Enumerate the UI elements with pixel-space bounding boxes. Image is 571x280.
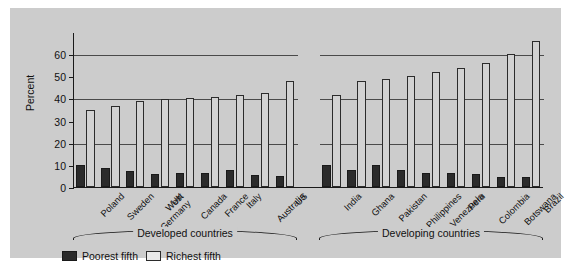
bar-richest-fifth <box>407 76 415 187</box>
legend-item-richest: Richest fifth <box>146 251 221 262</box>
bar-group <box>276 81 296 187</box>
y-tick-label-10: 10 <box>54 161 66 172</box>
bar-poorest-fifth <box>226 170 234 187</box>
x-tick-label: Ghana <box>370 192 397 219</box>
bar-richest-fifth <box>186 98 194 187</box>
gridline-60-group-0 <box>74 55 298 56</box>
y-tick-label-40: 40 <box>54 94 66 105</box>
y-axis-title: Percent <box>24 75 36 111</box>
bar-poorest-fifth <box>372 165 380 187</box>
bar-richest-fifth <box>161 99 169 187</box>
legend-label-poorest: Poorest fifth <box>82 251 138 262</box>
bar-group <box>447 68 467 187</box>
bar-group <box>251 93 271 187</box>
bar-poorest-fifth <box>472 174 480 187</box>
bar-richest-fifth <box>211 97 219 187</box>
bar-group <box>522 41 542 187</box>
bar-richest-fifth <box>261 93 269 187</box>
y-tick-label-50: 50 <box>54 72 66 83</box>
bar-group <box>372 79 392 187</box>
bar-richest-fifth <box>111 106 119 187</box>
bar-group <box>472 63 492 187</box>
bar-poorest-fifth <box>176 173 184 187</box>
y-tick-10 <box>69 166 74 167</box>
bar-group <box>126 101 146 187</box>
group-caption: Developing countries <box>378 227 484 239</box>
bar-group <box>497 54 517 187</box>
plot-area: 0102030405060 <box>73 33 543 188</box>
x-tick-label: Canada <box>200 192 230 222</box>
y-tick-50 <box>69 77 74 78</box>
x-tick-label: Italy <box>245 192 264 211</box>
bar-richest-fifth <box>532 41 540 187</box>
y-tick-0 <box>69 188 74 189</box>
bar-poorest-fifth <box>447 173 455 187</box>
y-tick-label-0: 0 <box>60 183 66 194</box>
dark-square-icon <box>62 251 77 261</box>
light-square-icon <box>146 251 161 261</box>
y-tick-label-30: 30 <box>54 116 66 127</box>
x-tick-label: Peru <box>467 192 488 213</box>
bar-poorest-fifth <box>422 173 430 187</box>
group-caption: Developed countries <box>133 227 237 239</box>
bar-group <box>76 110 96 188</box>
bar-poorest-fifth <box>522 177 530 187</box>
bar-group <box>151 99 171 187</box>
bar-poorest-fifth <box>497 177 505 187</box>
bar-richest-fifth <box>286 81 294 187</box>
bar-group <box>422 72 442 187</box>
bar-poorest-fifth <box>251 175 259 187</box>
bar-richest-fifth <box>382 79 390 187</box>
bar-richest-fifth <box>332 95 340 187</box>
bar-richest-fifth <box>507 54 515 187</box>
legend-item-poorest: Poorest fifth <box>62 251 138 262</box>
bar-group <box>201 97 221 187</box>
bar-richest-fifth <box>457 68 465 187</box>
chart-figure: Percent 0102030405060 PolandSwedenWestGe… <box>10 8 561 258</box>
y-tick-30 <box>69 122 74 123</box>
x-tick-label: Pakistan <box>397 192 429 224</box>
bar-poorest-fifth <box>101 168 109 187</box>
x-tick-label: Poland <box>99 192 126 219</box>
y-tick-label-60: 60 <box>54 50 66 61</box>
bar-group <box>397 76 417 187</box>
bar-richest-fifth <box>236 95 244 187</box>
x-tick-label: India <box>343 192 364 213</box>
bar-poorest-fifth <box>126 171 134 187</box>
y-tick-label-20: 20 <box>54 138 66 149</box>
bar-poorest-fifth <box>76 165 84 187</box>
chart-legend: Poorest fifth Richest fifth <box>62 251 221 262</box>
bar-group <box>322 95 342 187</box>
bar-poorest-fifth <box>276 176 284 187</box>
bar-group <box>347 81 367 187</box>
bar-richest-fifth <box>136 101 144 187</box>
legend-label-richest: Richest fifth <box>166 251 221 262</box>
bar-richest-fifth <box>482 63 490 187</box>
bar-group <box>176 98 196 187</box>
bar-poorest-fifth <box>347 170 355 187</box>
bar-poorest-fifth <box>322 165 330 187</box>
bar-group <box>101 106 121 187</box>
bar-poorest-fifth <box>201 173 209 187</box>
bar-poorest-fifth <box>397 170 405 187</box>
bar-group <box>226 95 246 187</box>
bar-poorest-fifth <box>151 174 159 187</box>
bar-richest-fifth <box>432 72 440 187</box>
bar-richest-fifth <box>86 110 94 188</box>
bar-richest-fifth <box>357 81 365 187</box>
